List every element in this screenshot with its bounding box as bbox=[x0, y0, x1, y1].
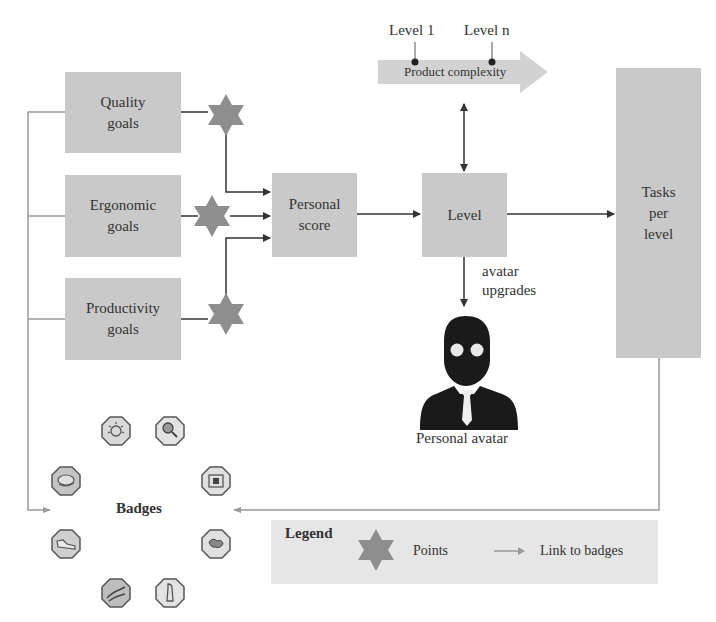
productivity-goals-line2: goals bbox=[107, 321, 139, 337]
personal-avatar-label: Personal avatar bbox=[416, 430, 508, 447]
ergonomic-goals-line1: Ergonomic bbox=[90, 197, 156, 213]
shoe-badge-icon[interactable] bbox=[51, 529, 81, 559]
magnifier-badge-icon[interactable] bbox=[155, 416, 185, 446]
legend-link-arrow-icon bbox=[494, 545, 526, 557]
hand-badge-icon[interactable] bbox=[101, 578, 131, 608]
badges-title: Badges bbox=[116, 500, 162, 517]
figure-badge-icon[interactable] bbox=[155, 578, 185, 608]
ergonomic-goals-line2: goals bbox=[107, 218, 139, 234]
tasks-per-level-box: Tasksperlevel bbox=[616, 68, 701, 358]
product-complexity-label: Product complexity bbox=[404, 64, 506, 80]
cloud-badge-icon[interactable] bbox=[51, 466, 81, 496]
person-avatar-icon bbox=[414, 312, 524, 430]
tasks-line2: per bbox=[649, 205, 668, 221]
tasks-line1: Tasks bbox=[642, 184, 676, 200]
quality-goals-box: Qualitygoals bbox=[65, 72, 181, 153]
personal-score-box: Personalscore bbox=[272, 173, 357, 257]
level-1-label: Level 1 bbox=[389, 22, 434, 39]
frame-badge-icon[interactable] bbox=[201, 466, 231, 496]
sun-badge-icon[interactable] bbox=[101, 416, 131, 446]
productivity-goals-line1: Productivity bbox=[86, 300, 160, 316]
legend-points-star-icon bbox=[356, 528, 396, 572]
productivity-points-star-icon bbox=[206, 292, 246, 336]
legend-points-label: Points bbox=[413, 543, 448, 559]
quality-goals-line1: Quality bbox=[101, 94, 146, 110]
ergonomic-points-star-icon bbox=[192, 194, 232, 238]
legend-title: Legend bbox=[285, 525, 333, 542]
level-n-label: Level n bbox=[464, 22, 509, 39]
tasks-line3: level bbox=[644, 226, 673, 242]
legend-link-label: Link to badges bbox=[540, 543, 623, 559]
avatar-upgrades-line2: upgrades bbox=[482, 282, 536, 298]
quality-goals-line2: goals bbox=[107, 115, 139, 131]
productivity-goals-box: Productivitygoals bbox=[65, 278, 181, 360]
level-box: Level bbox=[422, 173, 507, 257]
personal-score-line1: Personal bbox=[289, 196, 341, 212]
quality-points-star-icon bbox=[206, 93, 246, 137]
level-label: Level bbox=[447, 205, 481, 226]
ergonomic-goals-box: Ergonomicgoals bbox=[65, 175, 181, 257]
avatar-upgrades-label: avatarupgrades bbox=[482, 262, 536, 300]
globe-badge-icon[interactable] bbox=[201, 529, 231, 559]
personal-score-line2: score bbox=[299, 217, 331, 233]
avatar-upgrades-line1: avatar bbox=[482, 263, 519, 279]
